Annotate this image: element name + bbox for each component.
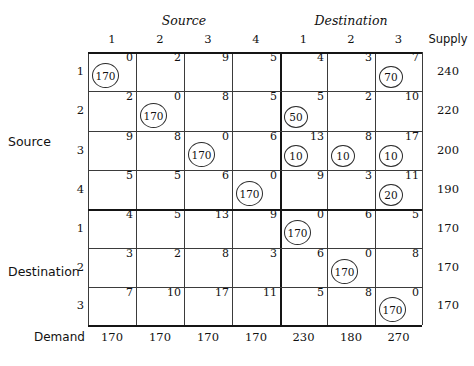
cell-r1-c7[interactable]: 770 bbox=[375, 52, 422, 91]
cell-r4-c3[interactable]: 6 bbox=[184, 170, 232, 209]
cell-r4-c1[interactable]: 5 bbox=[88, 170, 136, 209]
transportation-tableau: Source Destination Supply Source Destina… bbox=[0, 0, 474, 366]
cell-cost-r4-c5: 9 bbox=[317, 170, 324, 182]
cell-r4-c5[interactable]: 9 bbox=[280, 170, 327, 209]
cell-allocation-r6-c6: 170 bbox=[331, 259, 358, 284]
cell-r3-c5[interactable]: 1310 bbox=[280, 131, 327, 170]
cell-r7-c6[interactable]: 8 bbox=[327, 287, 375, 325]
cell-r6-c5[interactable]: 6 bbox=[280, 248, 327, 287]
cell-cost-r4-c6: 3 bbox=[365, 170, 372, 182]
cell-r1-c2[interactable]: 2 bbox=[136, 52, 184, 91]
cell-cost-r3-c4: 6 bbox=[270, 131, 277, 143]
cell-cost-r6-c5: 6 bbox=[317, 248, 324, 260]
cell-cost-r6-c2: 2 bbox=[174, 248, 181, 260]
cell-r3-c2[interactable]: 8 bbox=[136, 131, 184, 170]
cell-r6-c1[interactable]: 3 bbox=[88, 248, 136, 287]
cell-r1-c6[interactable]: 3 bbox=[327, 52, 375, 91]
cell-cost-r7-c1: 7 bbox=[126, 287, 133, 299]
cell-r5-c7[interactable]: 5 bbox=[375, 209, 422, 248]
cell-r4-c2[interactable]: 5 bbox=[136, 170, 184, 209]
supply-value-row-4: 190 bbox=[422, 182, 474, 196]
cell-allocation-r1-c1: 170 bbox=[92, 63, 119, 88]
cell-r3-c7[interactable]: 1710 bbox=[375, 131, 422, 170]
supply-value-row-3: 200 bbox=[422, 143, 474, 157]
cell-cost-r7-c5: 5 bbox=[317, 287, 324, 299]
supply-value-row-6: 170 bbox=[422, 260, 474, 274]
cell-r4-c6[interactable]: 3 bbox=[327, 170, 375, 209]
cell-r3-c6[interactable]: 810 bbox=[327, 131, 375, 170]
cell-r3-c1[interactable]: 9 bbox=[88, 131, 136, 170]
cell-cost-r3-c1: 9 bbox=[126, 131, 133, 143]
cell-cost-r5-c7: 5 bbox=[412, 209, 419, 221]
cell-cost-r3-c3: 0 bbox=[222, 131, 229, 143]
cell-allocation-r1-c7: 70 bbox=[379, 66, 403, 88]
cell-r2-c6[interactable]: 2 bbox=[327, 91, 375, 131]
cell-cost-r6-c4: 3 bbox=[270, 248, 277, 260]
supply-value-row-2: 220 bbox=[422, 103, 474, 117]
cell-r1-c3[interactable]: 9 bbox=[184, 52, 232, 91]
cell-r2-c3[interactable]: 8 bbox=[184, 91, 232, 131]
cell-cost-r2-c3: 8 bbox=[222, 91, 229, 103]
cell-cost-r1-c7: 7 bbox=[412, 52, 419, 64]
supply-column-header: Supply bbox=[422, 32, 474, 46]
cell-r5-c2[interactable]: 5 bbox=[136, 209, 184, 248]
cell-cost-r3-c2: 8 bbox=[174, 131, 181, 143]
cell-r6-c2[interactable]: 2 bbox=[136, 248, 184, 287]
cell-r5-c1[interactable]: 4 bbox=[88, 209, 136, 248]
cell-r3-c3[interactable]: 0170 bbox=[184, 131, 232, 170]
cell-allocation-r3-c6: 10 bbox=[331, 145, 355, 167]
cell-r6-c3[interactable]: 8 bbox=[184, 248, 232, 287]
cell-r5-c4[interactable]: 9 bbox=[232, 209, 280, 248]
cell-cost-r1-c4: 5 bbox=[270, 52, 277, 64]
cell-r6-c6[interactable]: 0170 bbox=[327, 248, 375, 287]
supply-value-row-5: 170 bbox=[422, 221, 474, 235]
cell-r5-c6[interactable]: 6 bbox=[327, 209, 375, 248]
cell-r1-c5[interactable]: 4 bbox=[280, 52, 327, 91]
cell-r4-c4[interactable]: 0170 bbox=[232, 170, 280, 209]
cell-r7-c1[interactable]: 7 bbox=[88, 287, 136, 325]
cell-r1-c1[interactable]: 0170 bbox=[88, 52, 136, 91]
cell-cost-r5-c2: 5 bbox=[174, 209, 181, 221]
grid-line-horizontal-7 bbox=[88, 325, 422, 327]
cell-r2-c1[interactable]: 2 bbox=[88, 91, 136, 131]
cell-allocation-r2-c2: 170 bbox=[140, 103, 167, 128]
cell-r7-c4[interactable]: 11 bbox=[232, 287, 280, 325]
cell-r2-c2[interactable]: 0170 bbox=[136, 91, 184, 131]
demand-value-col-1: 170 bbox=[88, 330, 136, 344]
cell-cost-r7-c6: 8 bbox=[365, 287, 372, 299]
cell-r3-c4[interactable]: 6 bbox=[232, 131, 280, 170]
cell-r6-c4[interactable]: 3 bbox=[232, 248, 280, 287]
cell-r4-c7[interactable]: 1120 bbox=[375, 170, 422, 209]
cell-allocation-r2-c5: 50 bbox=[284, 106, 308, 128]
cell-r2-c7[interactable]: 10 bbox=[375, 91, 422, 131]
column-header-1: 1 bbox=[88, 32, 136, 46]
cell-cost-r4-c4: 0 bbox=[270, 170, 277, 182]
cell-r7-c7[interactable]: 0170 bbox=[375, 287, 422, 325]
cell-r5-c5[interactable]: 0170 bbox=[280, 209, 327, 248]
row-header-source-1: 1 bbox=[62, 64, 84, 78]
cell-r1-c4[interactable]: 5 bbox=[232, 52, 280, 91]
row-header-source-3: 3 bbox=[62, 143, 84, 157]
cell-cost-r2-c7: 10 bbox=[405, 91, 419, 103]
cell-r2-c5[interactable]: 550 bbox=[280, 91, 327, 131]
cell-cost-r1-c1: 0 bbox=[126, 52, 133, 64]
cell-cost-r4-c2: 5 bbox=[174, 170, 181, 182]
cell-r7-c3[interactable]: 17 bbox=[184, 287, 232, 325]
cell-r2-c4[interactable]: 5 bbox=[232, 91, 280, 131]
row-header-source-2: 2 bbox=[62, 103, 84, 117]
cell-cost-r7-c2: 10 bbox=[167, 287, 181, 299]
demand-value-col-4: 170 bbox=[232, 330, 280, 344]
demand-row-label: Demand bbox=[34, 330, 85, 344]
demand-value-col-7: 270 bbox=[375, 330, 422, 344]
cell-cost-r6-c6: 0 bbox=[365, 248, 372, 260]
cell-r6-c7[interactable]: 8 bbox=[375, 248, 422, 287]
cell-r7-c5[interactable]: 5 bbox=[280, 287, 327, 325]
cell-allocation-r7-c7: 170 bbox=[379, 297, 406, 322]
column-header-2: 2 bbox=[136, 32, 184, 46]
cell-r7-c2[interactable]: 10 bbox=[136, 287, 184, 325]
cell-r5-c3[interactable]: 13 bbox=[184, 209, 232, 248]
column-header-6: 2 bbox=[327, 32, 375, 46]
column-header-7: 3 bbox=[375, 32, 422, 46]
cell-cost-r2-c1: 2 bbox=[126, 91, 133, 103]
cell-allocation-r5-c5: 170 bbox=[284, 220, 311, 245]
